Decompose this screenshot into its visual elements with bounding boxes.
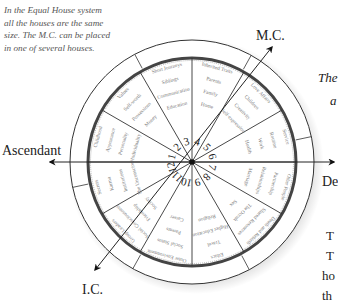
side-body-text: th xyxy=(322,288,332,304)
descendant-label: De xyxy=(322,174,338,189)
mc-label: M.C. xyxy=(256,28,285,43)
side-body-text: T xyxy=(326,248,334,264)
ic-label: I.C. xyxy=(82,282,103,296)
side-italic-text: a xyxy=(330,93,337,109)
side-body-text: T xyxy=(326,228,334,244)
center-point xyxy=(189,159,195,165)
side-italic-text: The xyxy=(318,70,338,86)
side-body-text: ho xyxy=(322,268,335,284)
ascendant-label: Ascendant xyxy=(2,143,61,158)
